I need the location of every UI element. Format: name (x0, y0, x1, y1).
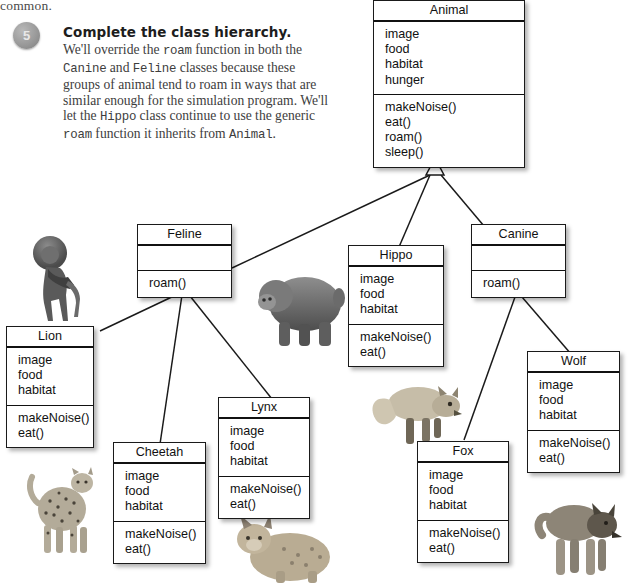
class-attributes-hippo: image food habitat (349, 267, 443, 325)
class-operations-fox: makeNoise() eat() (418, 521, 508, 562)
edge-fox-canine (464, 297, 515, 440)
edge-cheetah-feline (160, 295, 182, 444)
class-attributes-lynx: image food habitat (219, 419, 309, 477)
class-box-canine[interactable]: Canine roam() (471, 224, 566, 298)
operation: eat() (360, 345, 443, 360)
class-name-hippo: Hippo (349, 246, 443, 267)
class-operations-cheetah: makeNoise() eat() (114, 522, 205, 563)
code-term: roam (163, 44, 192, 58)
operation: eat() (429, 541, 508, 556)
class-operations-lynx: makeNoise() eat() (219, 477, 309, 518)
prose-run: class continue to use the generic (136, 108, 315, 123)
fox-photo (366, 376, 464, 448)
prose-run: and (106, 60, 132, 75)
attribute: image (429, 468, 508, 483)
class-name-canine: Canine (472, 225, 565, 246)
hippo-photo (255, 258, 347, 351)
class-attributes-cheetah: image food habitat (114, 464, 205, 522)
attribute: image (539, 378, 619, 393)
operation: makeNoise() (360, 330, 443, 345)
step-title: Complete the class hierarchy. (63, 24, 335, 40)
code-term: Hippo (100, 110, 136, 124)
class-operations-lion: makeNoise() eat() (7, 406, 93, 447)
class-operations-canine: roam() (472, 271, 565, 297)
wolf-photo (534, 487, 624, 579)
attribute: image (18, 353, 93, 368)
class-name-wolf: Wolf (528, 352, 619, 373)
operation: makeNoise() (539, 436, 619, 451)
class-box-cheetah[interactable]: Cheetah image food habitat makeNoise() e… (113, 442, 206, 564)
attribute: food (539, 393, 619, 408)
step-number-badge: 5 (13, 22, 40, 49)
attribute: hunger (385, 73, 524, 88)
cheetah-photo (26, 463, 98, 555)
edge-wolf-canine (522, 297, 571, 354)
attribute: food (18, 368, 93, 383)
attribute: image (360, 272, 443, 287)
operation: eat() (125, 542, 205, 557)
attribute: habitat (125, 499, 205, 514)
attribute: habitat (18, 383, 93, 398)
attribute: image (230, 424, 309, 439)
operation: roam() (385, 130, 524, 145)
attribute: food (429, 483, 508, 498)
operation: makeNoise() (18, 411, 93, 426)
book-page: common. 5 Complete the class hierarchy. … (0, 0, 631, 583)
operation: makeNoise() (230, 482, 309, 497)
prose-run: function in both the (192, 42, 302, 57)
code-term: Feline (133, 62, 176, 76)
step-paragraph: We'll override the roam function in both… (63, 42, 335, 144)
class-attributes-wolf: image food habitat (528, 373, 619, 431)
attribute: food (230, 439, 309, 454)
class-name-fox: Fox (418, 442, 508, 463)
attribute: habitat (230, 454, 309, 469)
prose-run: . (272, 126, 275, 141)
class-attributes-feline (138, 246, 231, 271)
class-name-cheetah: Cheetah (114, 443, 205, 464)
operation: eat() (230, 497, 309, 512)
operation: sleep() (385, 145, 524, 160)
operation: makeNoise() (385, 100, 524, 115)
class-box-fox[interactable]: Fox image food habitat makeNoise() eat() (417, 441, 509, 563)
attribute: food (360, 287, 443, 302)
attribute: image (385, 27, 524, 42)
class-name-lion: Lion (7, 327, 93, 348)
class-box-hippo[interactable]: Hippo image food habitat makeNoise() eat… (348, 245, 444, 367)
class-name-animal: Animal (374, 1, 524, 22)
attribute: food (385, 42, 524, 57)
class-box-lynx[interactable]: Lynx image food habitat makeNoise() eat(… (218, 397, 310, 519)
class-box-wolf[interactable]: Wolf image food habitat makeNoise() eat(… (527, 351, 620, 473)
class-attributes-canine (472, 246, 565, 271)
lion-photo (14, 233, 98, 323)
class-name-feline: Feline (138, 225, 231, 246)
class-operations-feline: roam() (138, 271, 231, 297)
attribute: habitat (360, 302, 443, 317)
attribute: image (125, 469, 205, 484)
attribute: habitat (429, 498, 508, 513)
step-body: Complete the class hierarchy. We'll over… (63, 24, 335, 144)
runover-text: common. (0, 0, 52, 14)
operation: eat() (18, 426, 93, 441)
operation: eat() (385, 115, 524, 130)
attribute: food (125, 484, 205, 499)
attribute: habitat (385, 57, 524, 72)
operation: makeNoise() (125, 527, 205, 542)
prose-run: We'll override the (63, 42, 163, 57)
attribute: habitat (539, 408, 619, 423)
class-attributes-animal: image food habitat hunger (374, 22, 524, 95)
class-box-lion[interactable]: Lion image food habitat makeNoise() eat(… (6, 326, 94, 448)
operation: roam() (149, 276, 231, 291)
class-operations-animal: makeNoise() eat() roam() sleep() (374, 95, 524, 167)
class-operations-hippo: makeNoise() eat() (349, 325, 443, 366)
class-attributes-lion: image food habitat (7, 348, 93, 406)
code-term: roam (63, 128, 92, 142)
code-term: Canine (63, 62, 106, 76)
prose-run: function it inherits from (92, 126, 229, 141)
edge-lion-feline (100, 295, 176, 331)
class-box-animal[interactable]: Animal image food habitat hunger makeNoi… (373, 0, 525, 168)
code-term: Animal (229, 128, 272, 142)
operation: eat() (539, 451, 619, 466)
operation: makeNoise() (429, 526, 508, 541)
class-box-feline[interactable]: Feline roam() (137, 224, 232, 298)
operation: roam() (483, 276, 565, 291)
